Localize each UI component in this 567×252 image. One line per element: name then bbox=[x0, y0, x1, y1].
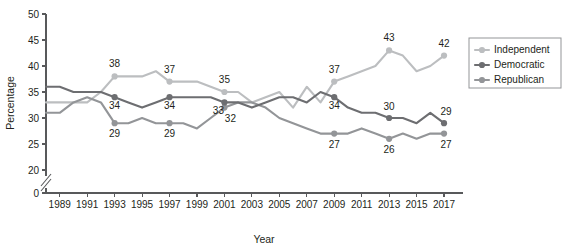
legend-label-independent: Independent bbox=[494, 44, 550, 55]
data-point-marker bbox=[112, 73, 118, 79]
data-point-label: 35 bbox=[219, 74, 231, 85]
data-point-label: 29 bbox=[109, 128, 121, 139]
data-point-marker bbox=[331, 79, 337, 85]
data-point-label: 32 bbox=[225, 113, 237, 124]
x-axis-title: Year bbox=[253, 233, 275, 245]
y-axis-tick-label: 40 bbox=[28, 61, 40, 72]
data-point-marker bbox=[166, 120, 172, 126]
data-point-label: 38 bbox=[109, 58, 121, 69]
x-axis-tick-label: 1999 bbox=[186, 199, 209, 210]
data-point-marker bbox=[441, 120, 447, 126]
x-axis-tick-label: 1997 bbox=[158, 199, 181, 210]
series-line-independent bbox=[46, 50, 444, 107]
x-axis-tick-label: 2013 bbox=[378, 199, 401, 210]
x-axis-tick-label: 2017 bbox=[433, 199, 456, 210]
x-axis-tick-label: 2011 bbox=[351, 199, 373, 210]
y-axis-tick-label: 45 bbox=[28, 35, 40, 46]
y-axis-title: Percentage bbox=[4, 76, 16, 130]
data-point-marker bbox=[386, 136, 392, 142]
x-axis-tick-label: 1995 bbox=[131, 199, 154, 210]
data-point-marker bbox=[386, 47, 392, 53]
data-point-marker bbox=[386, 115, 392, 121]
data-point-label: 37 bbox=[329, 64, 341, 75]
chart-container: 0202530354045501989199119931995199719992… bbox=[0, 0, 567, 252]
data-point-label: 42 bbox=[438, 38, 450, 49]
data-point-label: 34 bbox=[109, 100, 121, 111]
data-point-label: 34 bbox=[164, 100, 176, 111]
data-point-marker bbox=[166, 79, 172, 85]
data-point-label: 27 bbox=[329, 139, 341, 150]
data-point-label: 33 bbox=[213, 105, 225, 116]
x-axis-tick-label: 2003 bbox=[241, 199, 264, 210]
line-chart: 0202530354045501989199119931995199719992… bbox=[0, 0, 567, 252]
legend-label-republican: Republican bbox=[494, 74, 544, 85]
data-point-label: 37 bbox=[164, 64, 176, 75]
legend-marker-republican bbox=[479, 77, 485, 83]
y-axis-tick-label: 50 bbox=[28, 9, 40, 20]
data-point-label: 27 bbox=[440, 139, 452, 150]
legend-label-democratic: Democratic bbox=[494, 59, 545, 70]
x-axis-tick-label: 2005 bbox=[268, 199, 291, 210]
y-axis-tick-label: 30 bbox=[28, 113, 40, 124]
data-point-marker bbox=[331, 131, 337, 137]
data-point-label: 30 bbox=[384, 101, 396, 112]
x-axis-tick-label: 2015 bbox=[405, 199, 428, 210]
chart-legend: IndependentDemocraticRepublican bbox=[469, 38, 561, 88]
x-axis-tick-label: 2001 bbox=[213, 199, 236, 210]
series-layer bbox=[46, 47, 447, 142]
x-axis-tick-label: 1993 bbox=[103, 199, 126, 210]
x-axis-tick-label: 2009 bbox=[323, 199, 346, 210]
y-axis-tick-label: 25 bbox=[28, 139, 40, 150]
axes-layer: 0202530354045501989199119931995199719992… bbox=[28, 9, 463, 211]
y-axis-tick-label: 35 bbox=[28, 87, 40, 98]
legend-marker-democratic bbox=[479, 62, 485, 68]
data-point-label: 26 bbox=[384, 144, 396, 155]
data-point-marker bbox=[221, 89, 227, 95]
y-axis-tick-label: 0 bbox=[33, 188, 39, 199]
x-axis-tick-label: 2007 bbox=[296, 199, 319, 210]
data-point-marker bbox=[112, 120, 118, 126]
data-point-label: 29 bbox=[440, 106, 452, 117]
data-point-marker bbox=[441, 53, 447, 59]
data-point-label: 29 bbox=[164, 128, 176, 139]
data-point-label: 34 bbox=[329, 100, 341, 111]
data-point-label: 43 bbox=[384, 32, 396, 43]
x-axis-tick-label: 1989 bbox=[49, 199, 72, 210]
data-point-marker bbox=[441, 131, 447, 137]
legend-marker-independent bbox=[479, 47, 485, 53]
y-axis-tick-label: 20 bbox=[28, 165, 40, 176]
x-axis-tick-label: 1991 bbox=[76, 199, 99, 210]
